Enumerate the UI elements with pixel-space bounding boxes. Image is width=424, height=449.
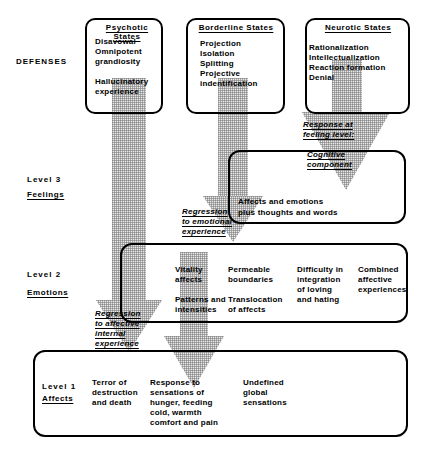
diagram-canvas: Psychotic States Disavowal Omnipotent gr… <box>0 0 424 449</box>
defense-box-psychotic-items: Disavowal Omnipotent grandiosity Halluci… <box>95 37 165 97</box>
row-label-level2-name: Emotions <box>27 288 68 297</box>
row-label-level3-number: Level 3 <box>27 175 61 184</box>
arrow-label-response-at-feeling-level: Response at feeling level: <box>303 120 395 140</box>
level2-column-permeable-boundaries: Permeable boundaries Translocation of af… <box>228 265 294 315</box>
row-label-defenses: DEFENSES <box>16 57 67 66</box>
defense-box-neurotic-items: Rationalization Intellectualization Reac… <box>309 43 413 83</box>
row-label-level3-name: Feelings <box>27 190 64 199</box>
level1-column-response-to-sensations: Response to sensations of hunger, feedin… <box>150 378 242 428</box>
defense-box-neurotic-header: Neurotic States <box>308 23 408 32</box>
level2-column-difficulty-integration: Difficulty in integration of loving and … <box>297 265 359 305</box>
defense-box-borderline-header: Borderline States <box>190 23 282 32</box>
row-label-level2-number: Level 2 <box>27 270 61 279</box>
level1-column-undefined-global-sensations: Undefined global sensations <box>243 378 317 408</box>
level1-column-terror-of-destruction: Terror of destruction and death <box>92 378 158 408</box>
level2-column-combined-affective: Combined affective experiences <box>358 265 420 295</box>
level3-box-text: Affects and emotions plus thoughts and w… <box>238 196 404 218</box>
defense-box-borderline-items: Projection Isolation Splitting Projectiv… <box>200 39 288 89</box>
